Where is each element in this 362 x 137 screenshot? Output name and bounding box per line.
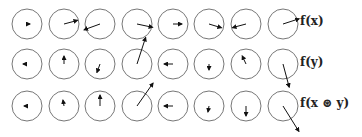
vector-cell [122, 37, 152, 79]
vector-arrow-icon [63, 100, 64, 106]
vector-cell [49, 49, 79, 79]
vector-cell [49, 9, 79, 39]
diagram-rows [12, 9, 299, 131]
vector-cell [122, 83, 153, 121]
vector-arrow-icon [137, 83, 153, 106]
vector-cell [268, 91, 299, 131]
vector-arrow-icon [283, 106, 299, 131]
vector-cell [158, 9, 188, 39]
vector-cell [85, 49, 115, 79]
row-label-fxy: f(x ⊛ y) [300, 96, 349, 110]
vector-cell [268, 49, 298, 87]
vector-row-0 [12, 9, 299, 39]
vector-arrow-icon [242, 56, 246, 64]
vector-cell [194, 91, 224, 121]
vector-cell [85, 91, 115, 121]
vector-cell [12, 91, 42, 121]
vector-cell [158, 91, 188, 121]
vector-row-1 [12, 37, 298, 87]
vector-arrow-icon [137, 24, 153, 27]
row-label-fy: f(y) [300, 55, 324, 69]
vector-arrow-icon [209, 24, 221, 28]
vector-cell [49, 91, 79, 121]
vector-arrow-icon [97, 64, 100, 72]
vector-arrow-icon [232, 24, 246, 28]
vector-cell [12, 49, 42, 79]
vector-cell [194, 49, 224, 79]
vector-cell [268, 9, 299, 39]
vector-arrow-icon [283, 19, 299, 24]
vector-arrow-icon [283, 64, 289, 87]
vector-cell [12, 9, 42, 39]
vector-arrow-icon [84, 24, 100, 30]
vector-cell [158, 49, 188, 79]
vector-cell [231, 91, 261, 121]
vector-cell [231, 49, 261, 79]
vector-cell [231, 9, 261, 39]
row-label-fx: f(x) [300, 14, 324, 28]
vector-cell [122, 9, 153, 39]
vector-row-2 [12, 83, 299, 131]
vector-cell [194, 9, 224, 39]
vector-arrow-icon [64, 20, 78, 24]
vector-arrow-icon [208, 106, 209, 112]
vector-cell [84, 9, 115, 39]
